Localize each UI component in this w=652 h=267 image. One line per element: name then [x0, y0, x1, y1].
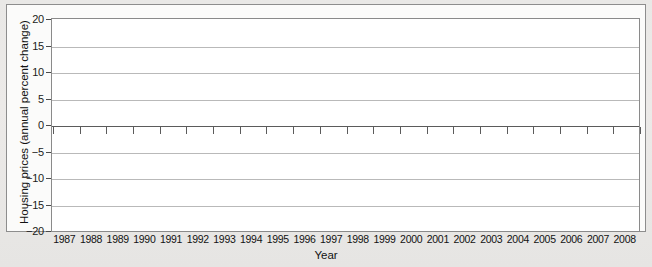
x-tick-mark	[507, 127, 508, 134]
x-tick-mark	[160, 127, 161, 134]
y-tick-mark	[46, 72, 51, 73]
x-tick-mark	[373, 127, 374, 134]
y-tick-mark	[46, 125, 51, 126]
chart-screenshot: 20151050−5−10−15−20 19871988198919901991…	[0, 0, 652, 267]
x-tick-label: 2000	[397, 234, 425, 245]
y-axis-title: Housing prices (annual percent change)	[18, 20, 30, 224]
y-tick-mark	[46, 231, 51, 232]
x-tick-label: 1990	[130, 234, 158, 245]
x-tick-label: 1993	[210, 234, 238, 245]
figure-frame: 20151050−5−10−15−20	[6, 4, 646, 232]
x-tick-label: 2001	[424, 234, 452, 245]
x-tick-label: 2002	[451, 234, 479, 245]
x-tick-mark	[133, 127, 134, 134]
x-tick-label: 1995	[264, 234, 292, 245]
x-tick-mark	[347, 127, 348, 134]
x-tick-mark	[533, 127, 534, 134]
x-tick-mark	[266, 127, 267, 134]
x-tick-label: 1994	[237, 234, 265, 245]
x-tick-label: 1997	[317, 234, 345, 245]
x-tick-label: 2007	[584, 234, 612, 245]
x-tick-mark	[53, 127, 54, 134]
gridline	[52, 206, 639, 207]
gridline	[52, 100, 639, 101]
x-tick-mark	[320, 127, 321, 134]
x-tick-mark	[560, 127, 561, 134]
y-tick-mark	[46, 152, 51, 153]
x-tick-label: 1998	[344, 234, 372, 245]
plot-area	[51, 18, 640, 232]
x-tick-mark	[80, 127, 81, 134]
x-axis-title: Year	[0, 249, 652, 261]
x-tick-mark	[587, 127, 588, 134]
x-tick-label: 2004	[504, 234, 532, 245]
gridline	[52, 153, 639, 154]
y-tick-mark	[46, 205, 51, 206]
x-tick-mark	[640, 127, 641, 134]
x-tick-mark	[240, 127, 241, 134]
y-tick-label: −20	[4, 226, 44, 237]
x-tick-label: 2006	[557, 234, 585, 245]
x-tick-mark	[400, 127, 401, 134]
x-tick-label: 2005	[531, 234, 559, 245]
x-tick-label: 1999	[371, 234, 399, 245]
gridline	[52, 47, 639, 48]
x-tick-mark	[427, 127, 428, 134]
y-tick-mark	[46, 46, 51, 47]
x-tick-label: 1989	[104, 234, 132, 245]
x-tick-mark	[213, 127, 214, 134]
x-tick-label: 1992	[184, 234, 212, 245]
x-tick-mark	[453, 127, 454, 134]
x-tick-mark	[186, 127, 187, 134]
gridline	[52, 179, 639, 180]
x-tick-mark	[293, 127, 294, 134]
gridline	[52, 73, 639, 74]
x-tick-label: 1987	[50, 234, 78, 245]
y-tick-mark	[46, 99, 51, 100]
x-tick-mark	[613, 127, 614, 134]
x-tick-label: 1991	[157, 234, 185, 245]
y-tick-mark	[46, 19, 51, 20]
x-tick-label: 1996	[290, 234, 318, 245]
x-tick-mark	[480, 127, 481, 134]
zero-line	[52, 126, 639, 127]
y-tick-mark	[46, 178, 51, 179]
x-tick-label: 2008	[611, 234, 639, 245]
x-tick-label: 2003	[477, 234, 505, 245]
x-tick-mark	[106, 127, 107, 134]
x-tick-label: 1988	[77, 234, 105, 245]
